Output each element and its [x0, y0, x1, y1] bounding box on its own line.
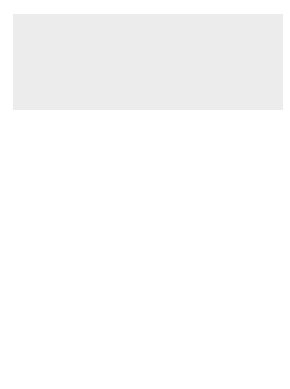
- diagram-graphics: [0, 0, 290, 389]
- diagram-canvas: [0, 0, 290, 389]
